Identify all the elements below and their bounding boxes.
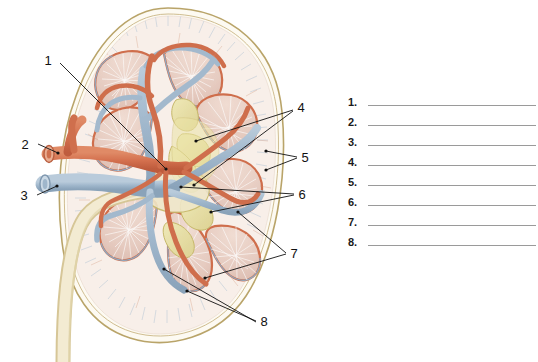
answer-list: 1. 2. 3. 4. 5. 6. 7. 8. (348, 88, 536, 260)
callout-number-7: 7 (290, 246, 297, 261)
answer-row-8[interactable]: 8. (348, 228, 536, 248)
callout-number-6: 6 (298, 187, 305, 202)
answer-blank-1[interactable] (368, 105, 536, 106)
answer-blank-5[interactable] (368, 185, 536, 186)
callout-number-4: 4 (297, 100, 304, 115)
answer-number-8: 8. (348, 236, 366, 248)
kidney-diagram-panel: 1 2 3 4 5 6 7 8 (0, 0, 340, 362)
answer-blank-4[interactable] (368, 165, 536, 166)
answer-row-5[interactable]: 5. (348, 168, 536, 188)
worksheet-page: 1 2 3 4 5 6 7 8 1. 2. 3. 4. (0, 0, 538, 362)
answer-row-2[interactable]: 2. (348, 108, 536, 128)
answer-blank-8[interactable] (368, 245, 536, 246)
suprarenal-branch (72, 118, 74, 150)
answer-blank-2[interactable] (368, 125, 536, 126)
callout-number-2: 2 (21, 137, 28, 152)
answer-number-5: 5. (348, 176, 366, 188)
answer-number-3: 3. (348, 136, 366, 148)
kidney-diagram-svg: 1 2 3 4 5 6 7 8 (0, 0, 340, 362)
answer-blank-7[interactable] (368, 225, 536, 226)
answer-row-6[interactable]: 6. (348, 188, 536, 208)
callout-number-8: 8 (260, 314, 267, 329)
answer-number-2: 2. (348, 116, 366, 128)
answer-number-4: 4. (348, 156, 366, 168)
answer-blank-6[interactable] (368, 205, 536, 206)
kidney-body (40, 8, 284, 362)
answer-blank-3[interactable] (368, 145, 536, 146)
answer-row-7[interactable]: 7. (348, 208, 536, 228)
answer-row-3[interactable]: 3. (348, 128, 536, 148)
callout-number-1: 1 (44, 53, 51, 68)
answer-row-1[interactable]: 1. (348, 88, 536, 108)
callout-number-5: 5 (301, 150, 308, 165)
callout-number-3: 3 (20, 188, 27, 203)
answer-number-1: 1. (348, 96, 366, 108)
answer-number-6: 6. (348, 196, 366, 208)
answer-number-7: 7. (348, 216, 366, 228)
answer-row-4[interactable]: 4. (348, 148, 536, 168)
